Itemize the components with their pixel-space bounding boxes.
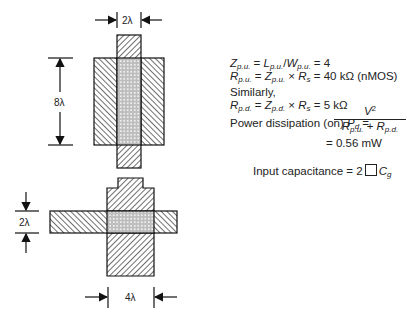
equation-r-pullup: Rp.u. = Zp.u. × Rs = 40 kΩ (nMOS) [230, 70, 397, 86]
pulldown-length-dimension: 4λ [85, 287, 177, 308]
fraction-numerator: V2 [334, 104, 406, 117]
similarly-text: Similarly, [230, 86, 276, 99]
pullup-length-label: 8λ [54, 97, 65, 108]
pulldown-transistor-layout [50, 178, 177, 276]
pulldown-width-label: 2λ [19, 217, 30, 228]
power-fraction: V2 Rp.u. + Rp.d. [334, 104, 406, 138]
pullup-transistor-layout [94, 35, 164, 168]
equation-r-pulldown: Rp.d. = Zp.d. × Rs = 5 kΩ [230, 99, 348, 115]
pulldown-width-dimension: 2λ [15, 192, 39, 253]
pulldown-channel-region [107, 211, 154, 233]
power-result: = 0.56 mW [326, 137, 382, 150]
input-capacitance: Input capacitance = 2Cg [253, 163, 391, 181]
pullup-width-label: 2λ [122, 15, 133, 26]
pullup-channel-region [117, 58, 141, 145]
pulldown-length-label: 4λ [125, 292, 136, 303]
pullup-length-dimension: 8λ [48, 58, 73, 145]
fraction-denominator: Rp.u. + Rp.d. [334, 120, 406, 134]
pullup-width-dimension: 2λ [95, 12, 162, 28]
square-unit-icon [365, 164, 377, 176]
